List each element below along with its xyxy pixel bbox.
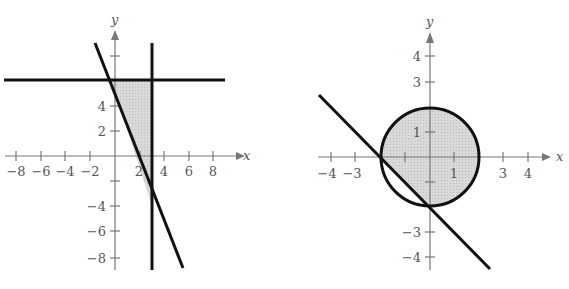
tick-label: −4 [402,250,421,265]
tick-label: 8 [209,164,217,179]
tick-label: 3 [499,166,507,181]
tick-label: 6 [185,164,193,179]
left-graph: x y −8 −6 −4 −2 2 4 6 8 4 2 [4,12,251,270]
tick-label: 4 [413,49,421,64]
tick-label: −4 [87,199,106,214]
tick-label: −4 [317,166,336,181]
left-y-axis [110,38,120,270]
tick-label: 1 [450,166,458,181]
right-graph: x y −4 −3 1 3 4 4 3 1 −3 −4 [317,14,564,270]
tick-label: −8 [6,164,25,179]
tick-label: 4 [160,164,168,179]
left-x-axis [5,151,238,161]
left-y-axis-label: y [110,12,119,27]
right-y-axis-label: y [425,14,434,29]
tick-label: −6 [31,164,50,179]
tick-label: −2 [80,164,99,179]
left-y-tick-labels: 4 2 −4 −6 −8 [87,99,106,266]
right-y-arrow-icon [426,32,434,43]
left-x-axis-label: x [243,148,251,163]
left-y-arrow-icon [111,30,119,40]
tick-label: −6 [87,224,106,239]
tick-label: 2 [98,124,106,139]
tick-label: −8 [87,251,106,266]
tick-label: 4 [524,166,532,181]
tick-label: −4 [55,164,74,179]
tick-label: 3 [413,75,421,90]
tick-label: 1 [413,125,421,140]
tick-label: 4 [98,99,106,114]
tick-label: −3 [342,166,361,181]
figure: x y −8 −6 −4 −2 2 4 6 8 4 2 [0,0,569,289]
right-x-axis-label: x [556,149,564,164]
tick-label: −3 [402,225,421,240]
left-x-tick-labels: −8 −6 −4 −2 2 4 6 8 [6,164,217,179]
right-x-arrow-icon [542,153,551,161]
